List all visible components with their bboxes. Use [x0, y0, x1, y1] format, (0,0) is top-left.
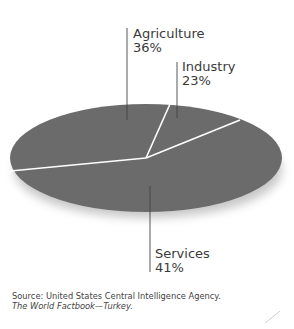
label-agriculture-name: Agriculture — [133, 27, 205, 41]
label-industry: Industry 23% — [182, 60, 235, 88]
source-line-2: The World Factbook—Turkey. — [12, 301, 221, 311]
label-agriculture: Agriculture 36% — [133, 27, 205, 55]
label-industry-pct: 23% — [182, 74, 235, 88]
label-industry-name: Industry — [182, 60, 235, 74]
label-services-pct: 41% — [155, 261, 210, 275]
label-agriculture-pct: 36% — [133, 41, 205, 55]
source-note: Source: United States Central Intelligen… — [12, 291, 221, 311]
label-services: Services 41% — [155, 247, 210, 275]
label-services-name: Services — [155, 247, 210, 261]
source-line-1: Source: United States Central Intelligen… — [12, 291, 221, 301]
corner-mark — [265, 311, 280, 323]
